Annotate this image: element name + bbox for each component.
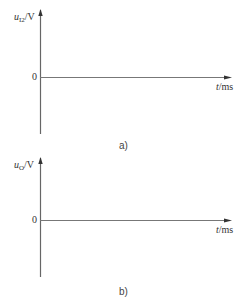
x-axis-label-b: t/ms <box>216 225 233 235</box>
x-axis-label-a: t/ms <box>216 82 233 92</box>
y-axis-arrow-icon <box>38 9 42 16</box>
x-unit: /ms <box>219 224 233 235</box>
panel-a: uI2/V 0 t/ms a) <box>0 0 249 154</box>
x-unit: /ms <box>219 81 233 92</box>
origin-label-a: 0 <box>32 72 37 82</box>
axes-a <box>0 0 249 154</box>
origin-label-b: 0 <box>32 215 37 225</box>
caption-b: b) <box>119 287 128 297</box>
x-axis-arrow-icon <box>224 219 232 223</box>
y-axis-label-b: uO/V <box>14 160 34 170</box>
y-unit: /V <box>25 11 35 22</box>
y-axis-label-a: uI2/V <box>14 12 35 22</box>
y-unit: /V <box>24 159 34 170</box>
x-axis-arrow-icon <box>224 76 232 80</box>
panel-b: uO/V 0 t/ms b) <box>0 150 249 308</box>
axes-b <box>0 150 249 308</box>
y-axis-arrow-icon <box>38 157 42 164</box>
